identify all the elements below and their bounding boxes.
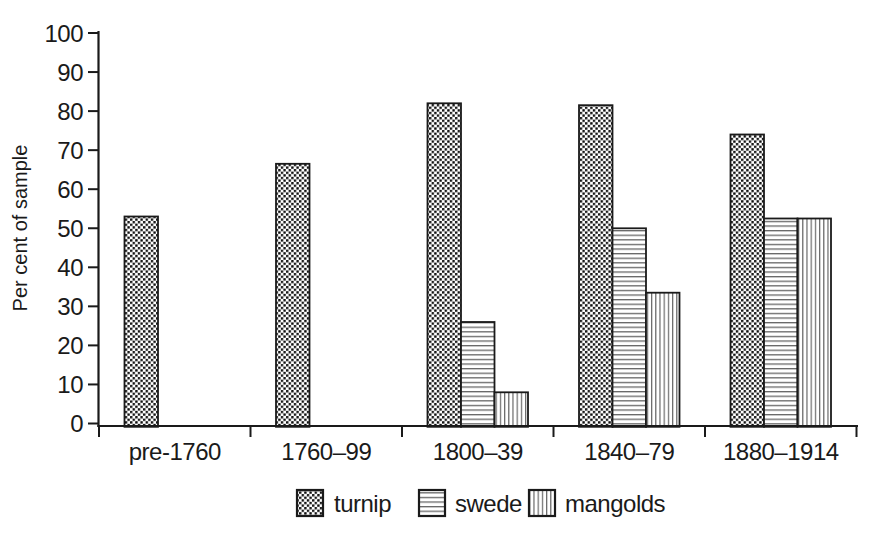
bar-turnip-3 — [579, 105, 613, 427]
bar-mangolds-4 — [798, 219, 832, 427]
y-tick-label: 0 — [70, 410, 83, 437]
x-category-label: 1880–1914 — [723, 438, 839, 465]
legend-swatch-swede — [419, 490, 445, 516]
y-tick-label: 70 — [57, 137, 83, 164]
bar-mangolds-3 — [646, 293, 680, 427]
bar-turnip-2 — [428, 103, 462, 427]
y-tick-label: 60 — [57, 176, 83, 203]
chart-figure: 0102030405060708090100pre-17601760–99180… — [0, 0, 875, 539]
bar-swede-2 — [461, 322, 495, 427]
x-category-label: 1840–79 — [584, 438, 674, 465]
y-axis-title: Per cent of sample — [9, 145, 31, 312]
legend-swatch-mangolds — [529, 490, 555, 516]
y-tick-label: 20 — [57, 332, 83, 359]
y-tick-label: 40 — [57, 254, 83, 281]
bar-swede-3 — [613, 228, 647, 427]
y-tick-label: 10 — [57, 371, 83, 398]
y-tick-label: 100 — [44, 20, 83, 47]
legend-label-turnip: turnip — [334, 490, 391, 517]
y-tick-label: 30 — [57, 293, 83, 320]
bar-turnip-4 — [731, 135, 765, 427]
bar-chart: 0102030405060708090100pre-17601760–99180… — [0, 0, 875, 539]
y-tick-label: 80 — [57, 98, 83, 125]
legend: turnip swede mangolds — [297, 490, 666, 517]
y-tick-label: 90 — [57, 59, 83, 86]
bar-turnip-1 — [276, 164, 310, 427]
bar-turnip-0 — [125, 217, 159, 427]
legend-swatch-turnip — [297, 490, 323, 516]
x-category-label: 1800–39 — [433, 438, 523, 465]
legend-label-swede: swede — [455, 490, 522, 517]
bar-swede-4 — [764, 219, 798, 427]
bar-mangolds-2 — [495, 392, 529, 427]
x-category-label: 1760–99 — [281, 438, 371, 465]
x-category-label: pre-1760 — [129, 438, 221, 465]
bars-layer — [125, 103, 832, 427]
y-tick-label: 50 — [57, 215, 83, 242]
legend-label-mangolds: mangolds — [565, 490, 666, 517]
